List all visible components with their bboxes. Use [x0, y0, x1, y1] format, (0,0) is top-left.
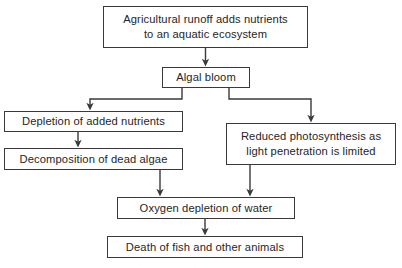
node-oxygen-depletion-of-water: Oxygen depletion of water: [117, 197, 295, 219]
node-algal-bloom: Algal bloom: [162, 67, 250, 88]
edge-algal-to-photo: [229, 88, 311, 119]
node-decomposition-of-dead-algae: Decomposition of dead algae: [4, 148, 183, 170]
flowchart-canvas: Agricultural runoff adds nutrients to an…: [0, 0, 402, 268]
node-agricultural-runoff: Agricultural runoff adds nutrients to an…: [103, 6, 308, 48]
node-depletion-of-added-nutrients: Depletion of added nutrients: [4, 111, 183, 132]
edge-algal-to-depletion: [90, 88, 182, 107]
node-reduced-photosynthesis: Reduced photosynthesis as light penetrat…: [226, 123, 396, 165]
node-death-of-fish-and-other-animals: Death of fish and other animals: [107, 236, 303, 258]
